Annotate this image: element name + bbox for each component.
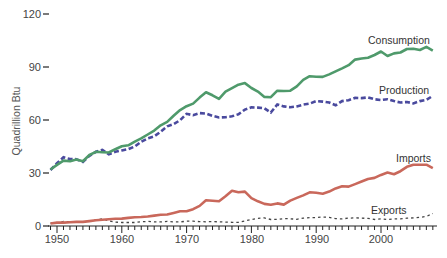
production-label: Production [379,84,429,96]
y-axis: 0 30 60 90 120 [23,8,49,232]
x-tick-label-2000: 2000 [369,233,393,245]
x-tick-label-1980: 1980 [240,233,264,245]
exports-label: Exports [371,204,407,216]
consumption-label: Consumption [368,34,430,46]
x-tick-label-1970: 1970 [175,233,199,245]
y-tick-label-0: 0 [35,220,41,232]
x-tick-label-1990: 1990 [305,233,329,245]
y-tick-label-60: 60 [29,114,41,126]
production-line [51,96,433,170]
x-axis: 1950 1960 1970 1980 1990 2000 [45,226,437,245]
x-tick-label-1960: 1960 [110,233,134,245]
series-lines [51,47,433,224]
y-axis-title: Quadrillion Btu [10,86,22,155]
energy-chart: Quadrillion Btu 0 30 60 90 120 1950 1960… [0,0,447,258]
y-tick-label-90: 90 [29,61,41,73]
y-tick-label-30: 30 [29,167,41,179]
y-tick-label-120: 120 [23,8,41,20]
consumption-line [51,47,433,170]
x-tick-label-1950: 1950 [45,233,69,245]
imports-label: Imports [396,152,431,164]
